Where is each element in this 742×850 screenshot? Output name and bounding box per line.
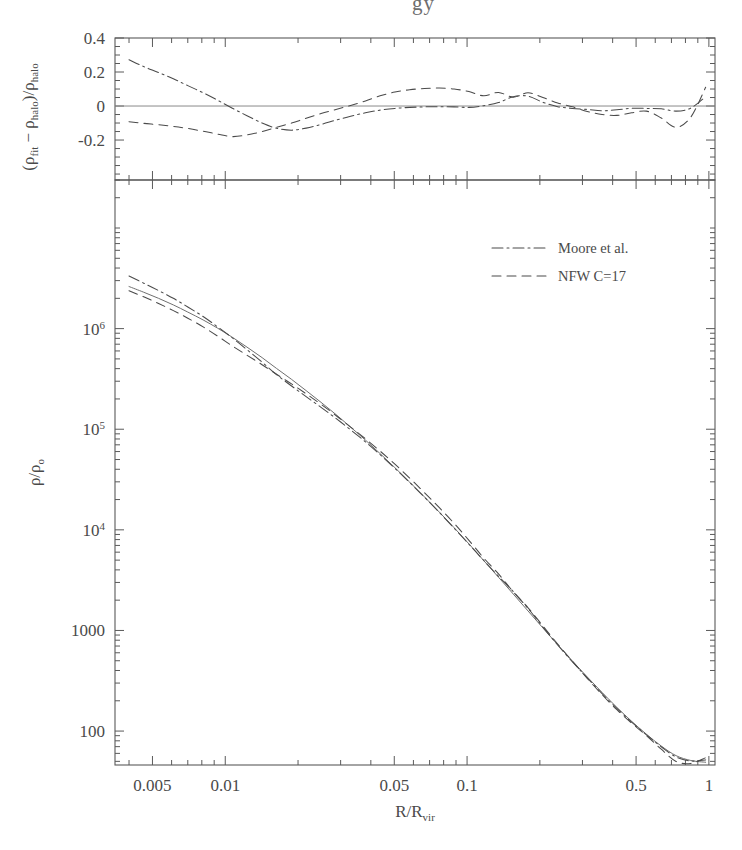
density-xtick-label: 0.005 [133,776,171,795]
residual-panel-frame [115,38,715,180]
header-text-fragment: gy [412,0,435,16]
density-ytick-label: 106 [83,319,106,339]
density-ytick-label: 105 [83,419,106,439]
residual-y-axis-label: (ρfit − ρhalo)/ρhalo [19,63,40,171]
residual-curve-moore-et-al [129,60,706,130]
x-axis-label: R/Rvir [395,802,435,823]
density-curve-nfw-c-17 [129,291,706,764]
density-xtick-label: 0.05 [379,776,409,795]
density-curve-halo-simulation [129,287,706,763]
residual-ytick-label: 0 [97,97,106,116]
residual-ytick-label: -0.2 [78,131,105,150]
density-curve-moore-et-al [129,276,706,761]
density-ytick-label: 104 [83,520,106,540]
density-xtick-label: 0.01 [210,776,240,795]
legend-label-2: NFW C=17 [558,268,626,284]
density-y-axis-label: ρ/ρo [25,458,46,486]
density-xtick-label: 0.1 [456,776,477,795]
residual-curve-nfw-c-17 [129,87,706,136]
figure-container: gy 0.40.20-0.210610510410001000.0050.010… [0,0,742,850]
legend-label-1: Moore et al. [558,240,628,256]
density-ytick-label: 100 [80,722,106,741]
density-xtick-label: 0.5 [625,776,646,795]
density-xtick-label: 1 [705,776,714,795]
residual-ytick-label: 0.2 [84,63,105,82]
residual-ytick-label: 0.4 [84,29,106,48]
density-ytick-label: 1000 [71,621,105,640]
scientific-figure: 0.40.20-0.210610510410001000.0050.010.05… [0,0,742,850]
